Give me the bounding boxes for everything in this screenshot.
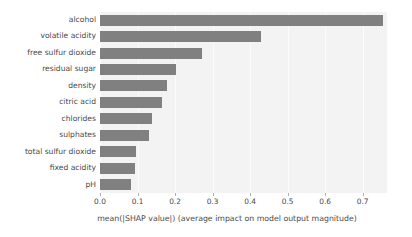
y-axis-tick-label: total sulfur dioxide [0, 144, 96, 160]
y-axis-tick-labels: alcoholvolatile acidityfree sulfur dioxi… [0, 12, 96, 193]
x-tick-mark [100, 193, 101, 196]
bar [100, 64, 176, 75]
bar [100, 31, 261, 42]
bar [100, 113, 152, 124]
x-axis-title-text: mean(|SHAP value|) (average impact on mo… [97, 214, 357, 223]
bar-row [100, 177, 387, 193]
shap-feature-importance-chart: alcoholvolatile acidityfree sulfur dioxi… [0, 0, 412, 237]
y-axis-tick-label: volatile acidity [0, 28, 96, 44]
bar [100, 97, 162, 108]
bar-row [100, 160, 387, 176]
bar-row [100, 144, 387, 160]
x-tick-mark [363, 193, 364, 196]
x-tick-mark [250, 193, 251, 196]
y-axis-tick-label: sulphates [0, 127, 96, 143]
x-tick-label: 0.0 [94, 197, 106, 206]
y-axis-tick-label: free sulfur dioxide [0, 45, 96, 61]
bar [100, 163, 135, 174]
bar [100, 179, 131, 190]
x-tick-label: 0.5 [282, 197, 294, 206]
y-axis-tick-label: density [0, 78, 96, 94]
bar-row [100, 28, 387, 44]
y-axis-tick-label: fixed acidity [0, 160, 96, 176]
bar-row [100, 111, 387, 127]
x-axis-title: mean(|SHAP value|) (average impact on mo… [0, 214, 412, 223]
bar [100, 146, 136, 157]
bar-row [100, 94, 387, 110]
bar-row [100, 12, 387, 28]
y-axis-tick-label: pH [0, 177, 96, 193]
x-tick-label: 0.7 [357, 197, 369, 206]
x-tick-label: 0.4 [244, 197, 256, 206]
bar [100, 48, 202, 59]
y-axis-tick-label: citric acid [0, 94, 96, 110]
x-tick-label: 0.2 [169, 197, 181, 206]
bar-row [100, 61, 387, 77]
bar-row [100, 45, 387, 61]
bar-series [100, 12, 387, 193]
x-tick-label: 0.1 [132, 197, 144, 206]
plot-area [100, 12, 387, 193]
bar [100, 130, 149, 141]
x-tick-mark [213, 193, 214, 196]
x-tick-mark [175, 193, 176, 196]
x-tick-mark [325, 193, 326, 196]
x-tick-label: 0.6 [319, 197, 331, 206]
bar [100, 15, 383, 26]
bar-row [100, 78, 387, 94]
x-tick-mark [288, 193, 289, 196]
y-axis-tick-label: alcohol [0, 12, 96, 28]
bar-row [100, 127, 387, 143]
y-axis-tick-label: chlorides [0, 111, 96, 127]
bar [100, 80, 167, 91]
x-tick-label: 0.3 [207, 197, 219, 206]
x-tick-mark [138, 193, 139, 196]
y-axis-tick-label: residual sugar [0, 61, 96, 77]
x-axis-ticks: 0.00.10.20.30.40.50.60.7 [100, 193, 387, 209]
